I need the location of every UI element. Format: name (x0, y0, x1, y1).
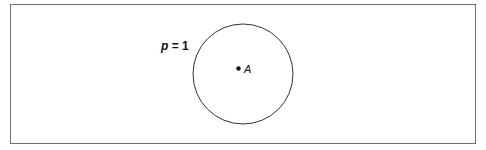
circle (193, 24, 293, 124)
diagram-canvas: A p = 1 (0, 0, 486, 150)
point-label-a: A (243, 63, 251, 75)
p-label: p = 1 (160, 39, 189, 53)
center-point-a (236, 66, 240, 70)
